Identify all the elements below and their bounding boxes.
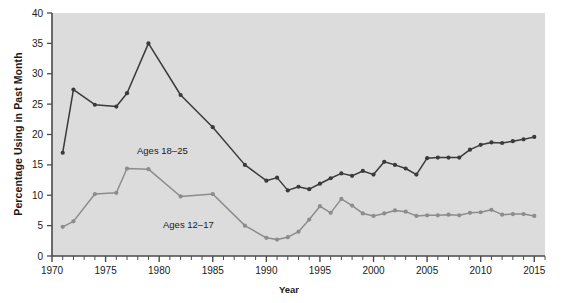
- chart-container: 0510152025303540 19701975198019851990199…: [0, 0, 567, 303]
- y-tick-label: 0: [37, 251, 43, 262]
- data-point: [61, 151, 65, 155]
- y-tick-label: 35: [32, 38, 44, 49]
- x-tick-label: 1975: [94, 265, 117, 276]
- y-tick-label: 10: [32, 190, 44, 201]
- data-point: [404, 210, 408, 214]
- data-point: [457, 155, 461, 159]
- data-point: [532, 135, 536, 139]
- data-point: [436, 155, 440, 159]
- data-point: [243, 224, 247, 228]
- data-point: [275, 176, 279, 180]
- data-point: [125, 166, 129, 170]
- y-tick-label: 15: [32, 159, 44, 170]
- data-point: [500, 213, 504, 217]
- data-point: [243, 163, 247, 167]
- data-point: [361, 211, 365, 215]
- data-point: [436, 213, 440, 217]
- data-point: [93, 192, 97, 196]
- y-tick-label: 25: [32, 99, 44, 110]
- x-tick-label: 1970: [41, 265, 64, 276]
- data-point: [425, 213, 429, 217]
- data-point: [264, 236, 268, 240]
- data-point: [511, 139, 515, 143]
- data-point: [371, 172, 375, 176]
- x-tick-label: 2010: [470, 265, 493, 276]
- data-point: [350, 203, 354, 207]
- data-point: [404, 166, 408, 170]
- data-point: [532, 214, 536, 218]
- data-point: [211, 192, 215, 196]
- data-point: [500, 141, 504, 145]
- y-tick-label: 20: [32, 129, 44, 140]
- data-point: [318, 204, 322, 208]
- data-point: [296, 185, 300, 189]
- series-annotation-ages-18-25: Ages 18–25: [137, 145, 188, 156]
- data-point: [479, 143, 483, 147]
- data-point: [393, 163, 397, 167]
- data-point: [479, 210, 483, 214]
- line-chart: 0510152025303540 19701975198019851990199…: [0, 0, 567, 303]
- plot-area-background: [52, 13, 545, 256]
- x-tick-label: 1980: [148, 265, 171, 276]
- data-point: [393, 208, 397, 212]
- data-point: [468, 148, 472, 152]
- data-point: [179, 93, 183, 97]
- y-tick-label: 5: [37, 220, 43, 231]
- data-point: [457, 213, 461, 217]
- data-point: [425, 156, 429, 160]
- x-axis-label: Year: [279, 284, 299, 295]
- x-tick-label: 1995: [309, 265, 332, 276]
- data-point: [179, 194, 183, 198]
- data-point: [211, 125, 215, 129]
- data-point: [93, 103, 97, 107]
- data-point: [329, 211, 333, 215]
- data-point: [382, 211, 386, 215]
- data-point: [71, 219, 75, 223]
- y-tick-label: 40: [32, 8, 44, 19]
- data-point: [414, 214, 418, 218]
- data-point: [125, 91, 129, 95]
- data-point: [489, 140, 493, 144]
- data-point: [521, 212, 525, 216]
- data-point: [350, 174, 354, 178]
- x-tick-label: 2005: [416, 265, 439, 276]
- data-point: [307, 187, 311, 191]
- data-point: [307, 217, 311, 221]
- data-point: [446, 155, 450, 159]
- data-point: [264, 179, 268, 183]
- data-point: [446, 213, 450, 217]
- x-tick-label: 1990: [255, 265, 278, 276]
- data-point: [521, 137, 525, 141]
- data-point: [329, 176, 333, 180]
- data-point: [371, 214, 375, 218]
- y-axis-label: Percentage Using in Past Month: [12, 52, 24, 215]
- data-point: [339, 171, 343, 175]
- data-point: [146, 167, 150, 171]
- data-point: [146, 41, 150, 45]
- data-point: [489, 208, 493, 212]
- data-point: [71, 87, 75, 91]
- series-annotation-ages-12-17: Ages 12–17: [163, 219, 214, 230]
- x-tick-label: 1985: [202, 265, 225, 276]
- data-point: [382, 160, 386, 164]
- data-point: [61, 225, 65, 229]
- data-point: [296, 230, 300, 234]
- data-point: [114, 104, 118, 108]
- data-point: [275, 238, 279, 242]
- y-tick-label: 30: [32, 68, 44, 79]
- data-point: [318, 182, 322, 186]
- data-point: [468, 211, 472, 215]
- data-point: [414, 172, 418, 176]
- data-point: [339, 197, 343, 201]
- data-point: [361, 169, 365, 173]
- x-tick-label: 2015: [523, 265, 546, 276]
- data-point: [511, 212, 515, 216]
- data-point: [114, 191, 118, 195]
- x-tick-label: 2000: [362, 265, 385, 276]
- data-point: [286, 188, 290, 192]
- data-point: [286, 235, 290, 239]
